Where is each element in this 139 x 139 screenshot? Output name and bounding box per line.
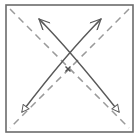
diagram-root: A square sheet of paper with two dashed …	[0, 0, 139, 139]
fold-diagram-canvas	[0, 0, 139, 139]
